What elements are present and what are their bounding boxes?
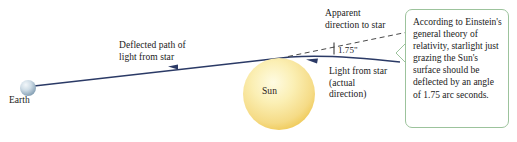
arrow-left-icon-deflected <box>168 65 178 70</box>
actual-direction-label: Light from star (actual direction) <box>329 66 387 101</box>
starlight-deflection-diagram: Earth Sun Deflected path of light from s… <box>0 0 517 142</box>
callout-tail <box>396 44 405 62</box>
sun-label: Sun <box>262 86 277 98</box>
callout-text: According to Einstein's general theory o… <box>413 16 503 101</box>
explanation-callout-box: According to Einstein's general theory o… <box>405 9 509 128</box>
earth-sphere-icon <box>20 80 36 96</box>
arrow-left-icon-actual <box>306 59 318 64</box>
sun-sphere-icon <box>243 58 315 130</box>
deflected-path-label: Deflected path of light from star <box>119 40 186 63</box>
deflection-angle-label: 1.75" <box>338 45 358 57</box>
apparent-direction-label: Apparent direction to star <box>325 8 385 31</box>
earth-label: Earth <box>9 95 30 107</box>
